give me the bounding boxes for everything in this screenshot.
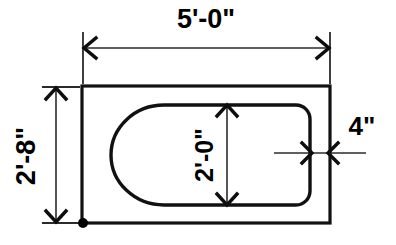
- technical-drawing-canvas: 5'-0" 2'-8": [0, 0, 396, 245]
- top-dimension-label: 5'-0": [177, 4, 235, 34]
- bathtub-dimension-drawing: 5'-0" 2'-8": [0, 0, 396, 245]
- origin-corner-dot: [78, 218, 88, 228]
- rim-dimension-label: 4": [349, 111, 376, 141]
- top-dimension-group: 5'-0": [83, 4, 330, 84]
- inner-dimension-label: 2'-0": [190, 128, 218, 182]
- left-dimension-group: 2'-8": [11, 87, 80, 223]
- left-dimension-label: 2'-8": [11, 127, 41, 185]
